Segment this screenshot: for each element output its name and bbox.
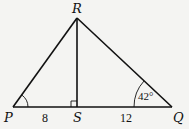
vertex-label-p: P (3, 110, 13, 125)
vertex-label-s: S (73, 110, 82, 125)
angle-label-q: 42° (138, 90, 153, 102)
length-label-sq: 12 (120, 111, 132, 125)
triangle-diagram: R P S Q 8 12 42° (0, 0, 189, 129)
vertex-label-r: R (71, 1, 82, 16)
angle-arc-p-icon (22, 95, 28, 107)
vertex-label-q: Q (173, 110, 184, 125)
right-angle-marker-icon (71, 101, 77, 107)
side-pr (13, 18, 77, 107)
length-label-ps: 8 (42, 111, 48, 125)
side-rq (77, 18, 172, 107)
